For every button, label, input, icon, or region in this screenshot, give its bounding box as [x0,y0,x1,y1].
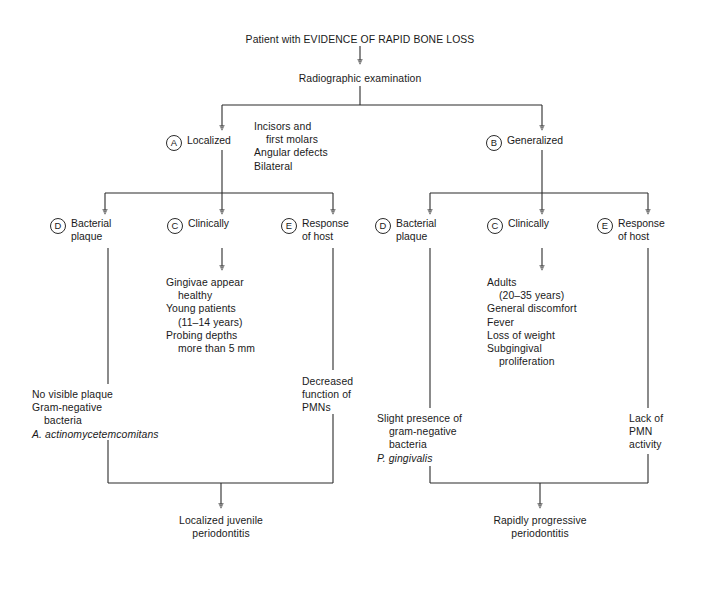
node-left-clinically-detail: Gingivae appear healthy Young patients (… [166,276,255,355]
node-localized-label: Localized [187,134,231,147]
node-localized: A Localized [166,133,231,149]
node-left-bacterial-plaque-detail: No visible plaque Gram-negative bacteria… [32,388,159,441]
flowchart-diagram: Patient with EVIDENCE OF RAPID BONE LOSS… [0,0,714,591]
node-right-bacterial-plaque-detail: Slight presence of gram-negative bacteri… [377,412,462,465]
node-generalized: B Generalized [486,133,563,149]
node-right-response-of-host: E Response of host [597,216,665,243]
node-right-clinically-detail: Adults (20–35 years) General discomfort … [487,276,577,368]
node-left-response-of-host: E Response of host [281,216,349,243]
node-left-bacterial-plaque-organism: A. actinomycetemcomitans [32,429,159,440]
marker-e-right-icon: E [597,218,613,234]
node-radiographic-examination: Radiographic examination [299,72,422,85]
node-right-conclusion: Rapidly progressive periodontitis [493,514,586,540]
marker-b-icon: B [486,135,502,151]
node-right-bacterial-plaque: D Bacterial plaque [375,216,436,243]
node-right-response-of-host-label: Response of host [618,217,665,243]
node-left-bacterial-plaque: D Bacterial plaque [50,216,111,243]
node-title: Patient with EVIDENCE OF RAPID BONE LOSS [246,33,475,46]
node-left-response-of-host-label: Response of host [302,217,349,243]
marker-a-icon: A [166,135,182,151]
node-left-conclusion: Localized juvenile periodontitis [179,514,263,540]
marker-c-left-icon: C [167,218,183,234]
marker-e-left-icon: E [281,218,297,234]
node-right-bacterial-plaque-detail-lines: Slight presence of gram-negative bacteri… [377,413,462,450]
node-right-clinically-label: Clinically [508,217,549,230]
node-localized-criteria: Incisors and first molars Angular defect… [254,120,328,173]
node-left-bacterial-plaque-label: Bacterial plaque [71,217,111,243]
node-generalized-label: Generalized [507,134,563,147]
marker-c-right-icon: C [487,218,503,234]
node-left-clinically: C Clinically [167,216,229,232]
marker-d-right-icon: D [375,218,391,234]
marker-d-left-icon: D [50,218,66,234]
node-right-bacterial-plaque-label: Bacterial plaque [396,217,436,243]
node-right-response-detail: Lack of PMN activity [629,412,663,452]
node-left-bacterial-plaque-detail-lines: No visible plaque Gram-negative bacteria [32,389,113,426]
node-right-bacterial-plaque-organism: P. gingivalis [377,453,432,464]
node-left-response-detail: Decreased function of PMNs [302,375,353,415]
node-left-clinically-label: Clinically [188,217,229,230]
flowchart-connectors [0,0,714,591]
node-right-clinically: C Clinically [487,216,549,232]
